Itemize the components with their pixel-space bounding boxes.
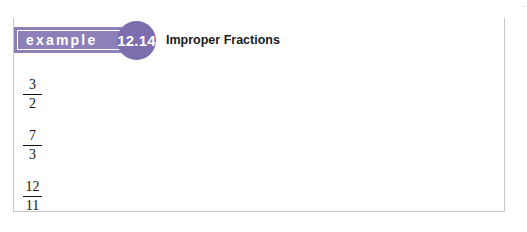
page-edge-tick [522, 6, 525, 7]
fraction-item: 7 3 [23, 129, 63, 162]
fraction-bar [23, 196, 42, 197]
fraction-bar [23, 145, 42, 146]
fraction-numerator: 3 [23, 78, 42, 93]
fraction-bar [23, 94, 42, 95]
fraction-item: 3 2 [23, 78, 63, 111]
document-page: example 12.14 Improper Fractions 3 2 7 3… [0, 0, 527, 232]
example-number: 12.14 [117, 21, 156, 60]
example-title: Improper Fractions [166, 33, 280, 47]
fraction-denominator: 11 [23, 198, 42, 213]
fraction-numerator: 7 [23, 129, 42, 144]
fraction-list: 3 2 7 3 12 11 [23, 78, 63, 231]
fraction-denominator: 3 [23, 147, 42, 162]
fraction-numerator: 12 [23, 180, 42, 195]
fraction-item: 12 11 [23, 180, 63, 213]
fraction-denominator: 2 [23, 96, 42, 111]
